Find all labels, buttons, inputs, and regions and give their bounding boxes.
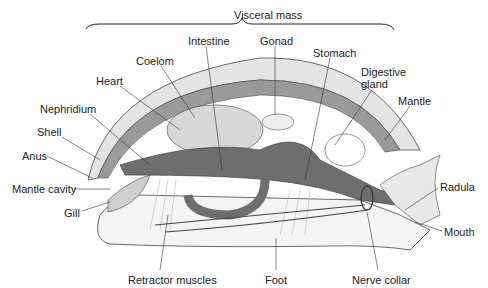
label-anus: Anus — [22, 150, 47, 162]
label-intestine: Intestine — [188, 35, 230, 47]
label-radula: Radula — [440, 181, 475, 193]
gonad-shape — [262, 114, 294, 130]
mollusc-diagram — [0, 0, 488, 288]
label-visceral-mass: Visceral mass — [234, 9, 302, 21]
label-coelom: Coelom — [136, 55, 174, 67]
label-gill: Gill — [64, 207, 80, 219]
label-nephridium: Nephridium — [40, 103, 96, 115]
label-mouth: Mouth — [444, 226, 475, 238]
label-heart: Heart — [96, 75, 123, 87]
label-gland: gland — [361, 78, 388, 90]
label-stomach: Stomach — [313, 47, 356, 59]
digestive-gland-shape — [325, 134, 365, 166]
label-nerve-collar: Nerve collar — [352, 274, 411, 286]
label-mantle: Mantle — [398, 95, 431, 107]
label-digestive: Digestive — [361, 66, 406, 78]
label-shell: Shell — [37, 126, 61, 138]
label-retractor-muscles: Retractor muscles — [128, 274, 217, 286]
label-mantle-cavity: Mantle cavity — [12, 183, 76, 195]
label-gonad: Gonad — [260, 35, 293, 47]
label-foot: Foot — [265, 274, 287, 286]
